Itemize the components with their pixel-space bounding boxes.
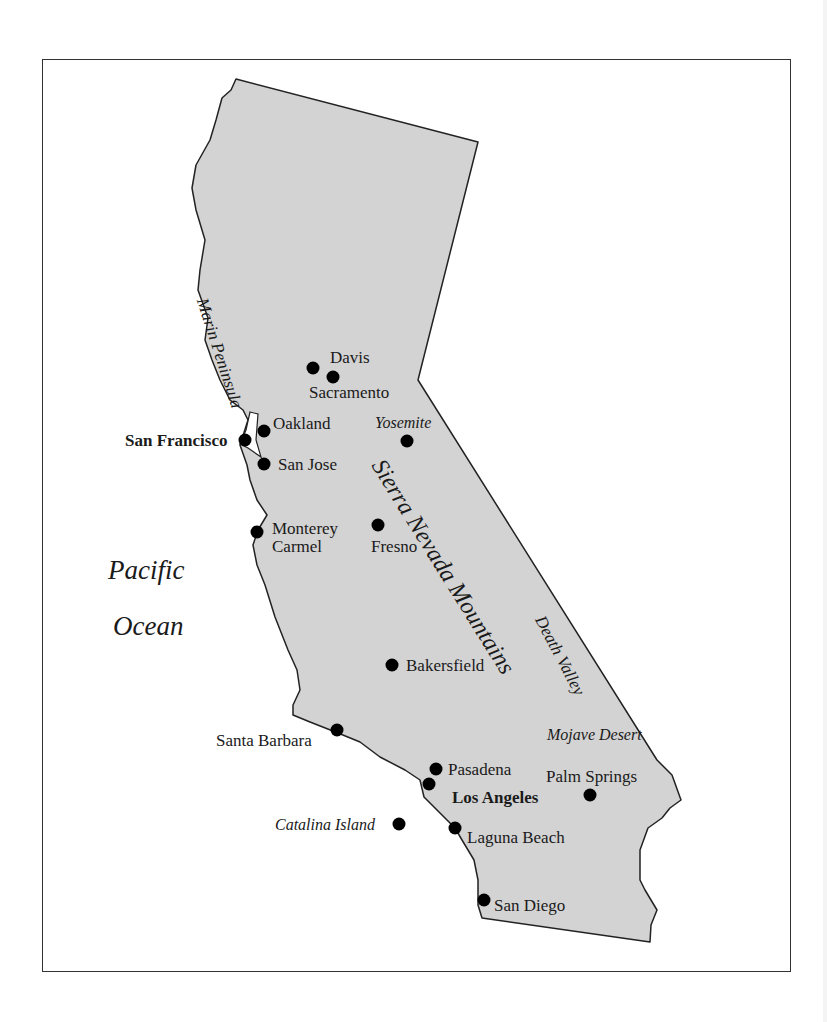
monterey-label: Monterey [272, 520, 338, 537]
monterey-marker[interactable] [251, 526, 264, 539]
sacramento-marker[interactable] [327, 371, 340, 384]
san-francisco-label: San Francisco [125, 432, 227, 449]
bakersfield-marker[interactable] [386, 659, 399, 672]
san-jose-marker[interactable] [258, 458, 271, 471]
davis-marker[interactable] [307, 362, 320, 375]
santa-barbara-label: Santa Barbara [216, 732, 312, 749]
oakland-label: Oakland [273, 415, 331, 432]
palm-springs-marker[interactable] [584, 789, 597, 802]
ocean-label-line1: Pacific [108, 557, 184, 584]
carmel-label: Carmel [272, 538, 322, 555]
san-jose-label: San Jose [278, 456, 337, 473]
san-francisco-marker[interactable] [239, 434, 252, 447]
san-diego-marker[interactable] [478, 894, 491, 907]
laguna-beach-label: Laguna Beach [467, 829, 565, 846]
sacramento-label: Sacramento [309, 384, 389, 401]
davis-label: Davis [330, 349, 370, 366]
los-angeles-label: Los Angeles [452, 789, 538, 806]
laguna-beach-marker[interactable] [449, 822, 462, 835]
yosemite-marker[interactable] [401, 435, 414, 448]
bakersfield-label: Bakersfield [406, 657, 484, 674]
fresno-label: Fresno [371, 538, 417, 555]
pasadena-label: Pasadena [448, 761, 511, 778]
yosemite-label: Yosemite [375, 415, 431, 431]
ocean-label-line2: Ocean [113, 613, 183, 640]
fresno-marker[interactable] [372, 519, 385, 532]
catalina-island-label: Catalina Island [275, 817, 375, 833]
pasadena-marker[interactable] [430, 763, 443, 776]
san-diego-label: San Diego [494, 897, 565, 914]
oakland-marker[interactable] [258, 425, 271, 438]
santa-barbara-marker[interactable] [331, 724, 344, 737]
los-angeles-marker[interactable] [423, 778, 436, 791]
page-edge [823, 0, 827, 1022]
palm-springs-label: Palm Springs [546, 768, 637, 785]
mojave-desert-label: Mojave Desert [547, 727, 642, 743]
catalina-island-marker[interactable] [393, 818, 406, 831]
